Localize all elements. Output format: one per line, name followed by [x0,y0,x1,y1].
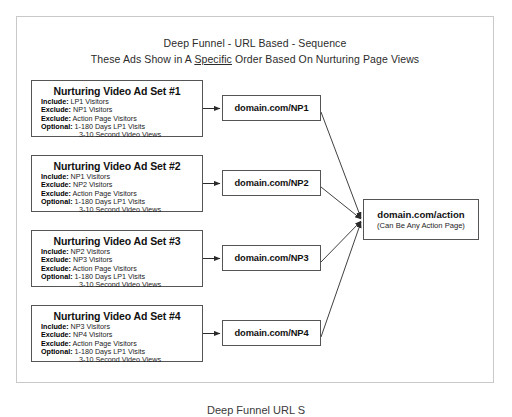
page-box-label: domain.com/NP2 [234,178,308,188]
title-line-secondary: These Ads Show in A Specific Order Based… [16,52,494,66]
adset-title: Nurturing Video Ad Set #1 [32,85,202,97]
criteria-label: Optional: [41,197,73,206]
title-line-primary: Deep Funnel - URL Based - Sequence [16,36,494,50]
adset-box-2[interactable]: Nurturing Video Ad Set #2 Include: NP1 V… [31,155,203,212]
slide-title: Deep Funnel - URL Based - Sequence These… [16,36,494,66]
title-emphasis: Specific [194,53,232,65]
adset-box-3[interactable]: Nurturing Video Ad Set #3 Include: NP2 V… [31,230,203,287]
criteria-label: Optional: [41,272,73,281]
action-page-title: domain.com/action [377,209,464,221]
adset-criteria-list: Include: NP3 Visitors Exclude: NP4 Visit… [32,323,202,364]
page-box-np3[interactable]: domain.com/NP3 [222,245,321,271]
adset-criteria-continuation: 3-10 Second Video Views [41,131,202,139]
page-box-np4[interactable]: domain.com/NP4 [222,320,321,346]
action-page-subtitle: (Can Be Any Action Page) [377,221,465,231]
adset-title: Nurturing Video Ad Set #4 [32,310,202,322]
page-box-label: domain.com/NP1 [234,103,308,113]
title-prefix: These Ads Show in A [91,53,195,65]
criteria-label: Optional: [41,122,73,131]
criteria-label: Optional: [41,347,73,356]
action-page-box[interactable]: domain.com/action (Can Be Any Action Pag… [363,199,479,240]
adset-title: Nurturing Video Ad Set #2 [32,160,202,172]
diagram-canvas: Deep Funnel - URL Based - Sequence These… [0,0,512,417]
page-box-label: domain.com/NP3 [234,253,308,263]
adset-criteria-list: Include: LP1 Visitors Exclude: NP1 Visit… [32,98,202,139]
adset-criteria-list: Include: NP2 Visitors Exclude: NP3 Visit… [32,248,202,289]
adset-box-4[interactable]: Nurturing Video Ad Set #4 Include: NP3 V… [31,305,203,362]
adset-criteria-list: Include: NP1 Visitors Exclude: NP2 Visit… [32,173,202,214]
adset-criteria-continuation: 3-10 Second Video Views [41,206,202,214]
page-box-np2[interactable]: domain.com/NP2 [222,170,321,196]
adset-box-1[interactable]: Nurturing Video Ad Set #1 Include: LP1 V… [31,80,203,137]
page-box-label: domain.com/NP4 [234,328,308,338]
adset-criteria-continuation: 3-10 Second Video Views [41,281,202,289]
adset-title: Nurturing Video Ad Set #3 [32,235,202,247]
title-suffix: Order Based On Nurturing Page Views [232,53,419,65]
bottom-caption: Deep Funnel URL S [0,404,512,417]
page-box-np1[interactable]: domain.com/NP1 [222,95,321,121]
adset-criteria-continuation: 3-10 Second Video Views [41,356,202,364]
